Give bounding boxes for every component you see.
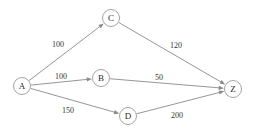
edge-weight-a-to-d: 150 — [62, 106, 74, 115]
edge-a-to-d[interactable] — [31, 88, 119, 114]
edge-weight-b-to-z: 50 — [155, 73, 163, 82]
node-group: A B C D Z — [14, 10, 242, 125]
node-b[interactable]: B — [93, 70, 110, 87]
edge-weight-a-to-b: 100 — [55, 72, 67, 81]
node-b-label: B — [98, 73, 104, 83]
edge-a-to-c-arrowhead — [98, 24, 103, 29]
edge-c-to-z-arrowhead — [220, 80, 226, 84]
edge-c-to-z[interactable] — [119, 23, 225, 85]
edge-a-to-b-arrowhead — [87, 77, 92, 81]
edge-b-to-z-line — [110, 79, 221, 88]
edge-d-to-z-arrowhead — [219, 91, 225, 95]
edge-weight-c-to-z: 120 — [170, 41, 182, 50]
edge-group — [29, 23, 225, 115]
edge-weight-d-to-z: 200 — [171, 111, 183, 120]
graph-canvas: A B C D Z 100 120 100 50 — [0, 0, 255, 135]
node-c[interactable]: C — [103, 10, 120, 27]
edge-b-to-z-arrowhead — [219, 86, 224, 90]
node-z[interactable]: Z — [225, 81, 242, 98]
node-c-label: C — [108, 13, 114, 23]
node-a-label: A — [19, 81, 26, 91]
node-d-label: D — [125, 111, 132, 121]
node-d[interactable]: D — [120, 108, 137, 125]
edge-c-to-z-line — [119, 23, 223, 83]
network-diagram: A B C D Z 100 120 100 50 — [0, 0, 255, 135]
node-a[interactable]: A — [14, 78, 31, 95]
node-z-label: Z — [230, 84, 236, 94]
edge-weight-a-to-c: 100 — [52, 40, 64, 49]
edge-b-to-z[interactable] — [110, 79, 224, 90]
edge-a-to-d-arrowhead — [114, 110, 120, 114]
